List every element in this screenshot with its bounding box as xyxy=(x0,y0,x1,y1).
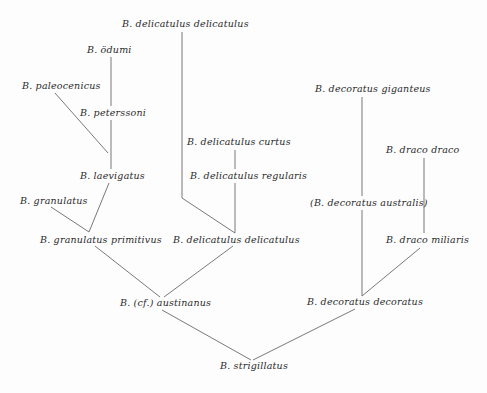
taxon-label: B. paleocenicus xyxy=(22,80,101,91)
tree-edge xyxy=(362,248,420,296)
taxon-label: B. decoratus giganteus xyxy=(315,83,431,94)
tree-edge xyxy=(182,198,235,233)
taxon-label: B. peterssoni xyxy=(80,107,146,118)
taxon-label: B. granulatus primitivus xyxy=(40,234,162,245)
taxon-label: B. draco miliaris xyxy=(386,234,469,245)
taxon-label: B. strigillatus xyxy=(220,360,288,371)
taxon-label: B. draco draco xyxy=(386,144,460,155)
taxon-label: B. delicatulus delicatulus xyxy=(173,234,300,245)
taxon-label: B. delicatulus regularis xyxy=(190,170,307,181)
tree-edge xyxy=(162,310,251,360)
tree-edge xyxy=(89,183,109,232)
taxon-label: B. granulatus xyxy=(20,195,88,206)
tree-edge xyxy=(95,246,160,297)
taxon-label: B. laevigatus xyxy=(80,170,145,181)
taxon-label: (B. decoratus australis) xyxy=(310,197,428,208)
taxon-label: B. delicatulus curtus xyxy=(187,136,291,147)
taxon-label: B. ödumi xyxy=(87,44,132,55)
tree-edge xyxy=(164,246,233,297)
taxon-label: B. decoratus decoratus xyxy=(307,296,423,307)
taxon-label: B. (cf.) austinanus xyxy=(120,297,211,308)
tree-edge xyxy=(51,207,89,232)
tree-edge xyxy=(253,309,355,360)
taxon-label: B. delicatulus delicatulus xyxy=(122,18,249,29)
phylogenetic-tree-diagram: B. delicatulus delicatulusB. ödumiB. pal… xyxy=(0,0,487,393)
tree-edge xyxy=(55,93,108,153)
